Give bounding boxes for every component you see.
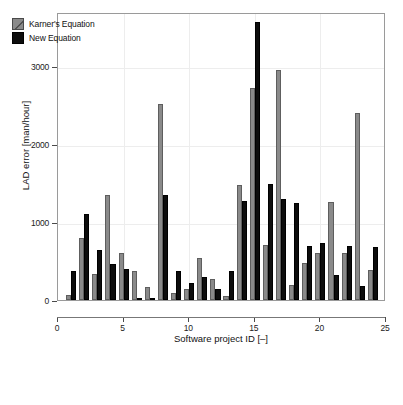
- legend-item-karner: Karner's Equation: [12, 17, 95, 31]
- bar-series-new-project-2: [84, 214, 89, 300]
- bar-series-new-project-21: [334, 275, 339, 300]
- x-axis-label: Software project ID [–]: [57, 333, 385, 344]
- x-tick-label: 15: [239, 323, 269, 333]
- legend-label-new-equation: New Equation: [29, 33, 81, 43]
- bar-series-karner-project-6: [132, 271, 137, 300]
- y-tick-mark: [52, 145, 57, 146]
- gray-hatched-swatch-icon: [12, 18, 24, 30]
- bars-container: [58, 14, 384, 300]
- bar-series-new-project-4: [110, 264, 115, 300]
- bar-series-new-project-24: [373, 247, 378, 300]
- bar-series-new-project-13: [229, 271, 234, 300]
- y-axis-label: LAD error [man/hour]: [20, 46, 31, 246]
- y-tick-mark: [52, 223, 57, 224]
- bar-series-new-project-15: [255, 22, 260, 300]
- bar-series-new-project-3: [97, 250, 102, 300]
- bar-series-new-project-14: [242, 201, 247, 300]
- bar-series-new-project-22: [347, 246, 352, 300]
- bar-series-new-project-11: [202, 277, 207, 300]
- x-tick-mark: [385, 317, 386, 322]
- bar-series-karner-project-23: [355, 113, 360, 300]
- bar-series-new-project-1: [71, 271, 76, 300]
- chart-legend: Karner's Equation New Equation: [8, 14, 99, 48]
- black-swatch-icon: [12, 32, 24, 44]
- y-tick-label: 0: [3, 296, 49, 306]
- x-tick-label: 5: [108, 323, 138, 333]
- bar-series-new-project-12: [215, 289, 220, 300]
- legend-item-new-equation: New Equation: [12, 31, 95, 45]
- y-tick-mark: [52, 67, 57, 68]
- bar-series-new-project-5: [124, 269, 129, 300]
- bar-series-new-project-20: [320, 243, 325, 300]
- x-tick-label: 10: [173, 323, 203, 333]
- x-tick-label: 20: [304, 323, 334, 333]
- bar-series-new-project-17: [281, 199, 286, 300]
- bar-series-new-project-10: [189, 283, 194, 300]
- bar-chart-figure: 0100020003000 0510152025 Software projec…: [0, 0, 403, 405]
- y-tick-mark: [52, 301, 57, 302]
- plot-area: [57, 13, 385, 301]
- bar-series-new-project-8: [163, 195, 168, 300]
- bar-series-new-project-16: [268, 184, 273, 300]
- bar-series-new-project-23: [360, 286, 365, 300]
- bar-series-new-project-9: [176, 271, 181, 300]
- bar-series-new-project-19: [307, 246, 312, 300]
- bar-series-new-project-6: [137, 298, 142, 300]
- x-axis-line: [57, 317, 385, 318]
- legend-label-karner: Karner's Equation: [29, 19, 95, 29]
- bar-series-new-project-18: [294, 203, 299, 300]
- x-tick-label: 25: [370, 323, 400, 333]
- x-tick-label: 0: [42, 323, 72, 333]
- bar-series-new-project-7: [150, 298, 155, 300]
